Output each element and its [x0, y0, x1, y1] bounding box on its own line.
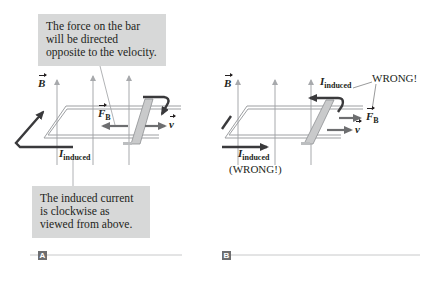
velocity-label: v: [169, 118, 174, 130]
current-bottom-label: Iinduced: [238, 147, 269, 159]
current-label: Iinduced: [59, 147, 90, 159]
b-field-label: B: [224, 77, 231, 89]
panel-tag-b: B: [222, 251, 231, 260]
wrong-bottom-label: (WRONG!): [229, 163, 282, 175]
force-label: FB: [98, 107, 111, 119]
sliding-bar: [304, 100, 334, 144]
callout-induced-current-clockwise: The induced current is clockwise as view…: [32, 186, 150, 238]
force-subscript: B: [105, 113, 110, 122]
b-field-label: B: [38, 77, 45, 89]
b-field-symbol: B: [224, 77, 231, 89]
current-subscript: induced: [63, 153, 90, 162]
callout-force-opposite-velocity: The force on the bar will be directed op…: [38, 14, 166, 66]
velocity-symbol: v: [355, 123, 360, 135]
wrong-pointer-line: [353, 82, 372, 88]
wrong-top-label: WRONG!: [372, 72, 417, 84]
b-field-symbol: B: [38, 77, 45, 89]
current-bottom-subscript: induced: [242, 153, 269, 162]
current-top-subscript: induced: [324, 81, 351, 90]
current-top-label: Iinduced: [320, 75, 351, 87]
velocity-symbol: v: [169, 118, 174, 130]
panel-tag-a: A: [38, 251, 47, 260]
force-subscript: B: [373, 116, 378, 125]
u-shaped-rail: [225, 106, 363, 138]
force-label: FB: [366, 110, 379, 122]
u-shaped-rail: [44, 106, 181, 138]
velocity-label: v: [355, 123, 360, 135]
